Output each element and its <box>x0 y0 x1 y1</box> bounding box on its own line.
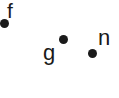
data-point-marker-g[interactable] <box>59 35 68 44</box>
data-point-label-f: f <box>7 0 13 21</box>
scatter-plot-canvas: f g n <box>0 0 119 98</box>
data-point-label-n: n <box>98 27 110 49</box>
data-point-marker-n[interactable] <box>88 49 97 58</box>
data-point-label-g: g <box>43 42 55 64</box>
data-point-group-n: n <box>0 0 119 98</box>
